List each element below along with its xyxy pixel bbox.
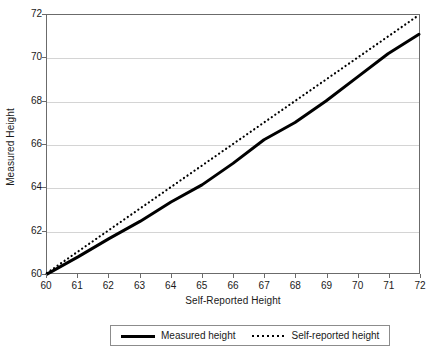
x-axis-ticks <box>46 274 420 278</box>
x-axis-tick-label: 71 <box>374 280 404 292</box>
y-axis-tick-label: 60 <box>17 269 42 279</box>
x-axis-tick-label: 72 <box>405 280 435 292</box>
y-axis-tick-label: 68 <box>17 96 42 106</box>
x-axis-tick-label: 68 <box>280 280 310 292</box>
x-axis-tick-label: 61 <box>62 280 92 292</box>
x-axis-tick-label: 63 <box>125 280 155 292</box>
y-axis-tick-label: 66 <box>17 139 42 149</box>
x-axis-tick-label: 69 <box>312 280 342 292</box>
legend-entry: Measured height <box>121 330 236 342</box>
chart-container: Measured Height 60626466687072 606162636… <box>0 0 446 354</box>
x-axis-tick <box>389 274 390 278</box>
x-axis-tick-label: 62 <box>93 280 123 292</box>
x-axis-tick-label: 60 <box>31 280 61 292</box>
legend-entry: Self-reported height <box>252 330 380 342</box>
x-axis-tick <box>327 274 328 278</box>
x-axis-tick-labels: 60616263646566676869707172 <box>46 280 420 294</box>
x-axis-tick-label: 64 <box>156 280 186 292</box>
y-axis-tick-labels: 60626466687072 <box>17 14 42 274</box>
x-axis-tick <box>295 274 296 278</box>
dotted-line-icon <box>252 331 286 341</box>
x-axis-tick <box>140 274 141 278</box>
legend-label: Self-reported height <box>292 330 380 342</box>
y-axis-tick-label: 70 <box>17 52 42 62</box>
x-axis-tick <box>171 274 172 278</box>
series-layer <box>47 15 419 273</box>
x-axis-tick <box>233 274 234 278</box>
solid-line-icon <box>121 331 155 341</box>
legend-label: Measured height <box>161 330 236 342</box>
x-axis-tick-label: 66 <box>218 280 248 292</box>
x-axis-tick-label: 65 <box>187 280 217 292</box>
x-axis-title: Self-Reported Height <box>46 294 420 307</box>
plot-area <box>46 14 420 274</box>
x-axis-tick-label: 67 <box>249 280 279 292</box>
series-line <box>47 15 419 273</box>
y-axis-tick-label: 64 <box>17 182 42 192</box>
series-line <box>47 34 419 274</box>
x-axis-tick <box>46 274 47 278</box>
y-axis-tick-label: 62 <box>17 226 42 236</box>
x-axis-tick <box>202 274 203 278</box>
x-axis-tick <box>77 274 78 278</box>
x-axis-tick <box>420 274 421 278</box>
x-axis-tick <box>108 274 109 278</box>
x-axis-tick <box>358 274 359 278</box>
y-axis-title: Measured Height <box>4 4 18 290</box>
chart-legend: Measured heightSelf-reported height <box>110 325 390 346</box>
x-axis-tick <box>264 274 265 278</box>
y-axis-tick-label: 72 <box>17 9 42 19</box>
x-axis-tick-label: 70 <box>343 280 373 292</box>
